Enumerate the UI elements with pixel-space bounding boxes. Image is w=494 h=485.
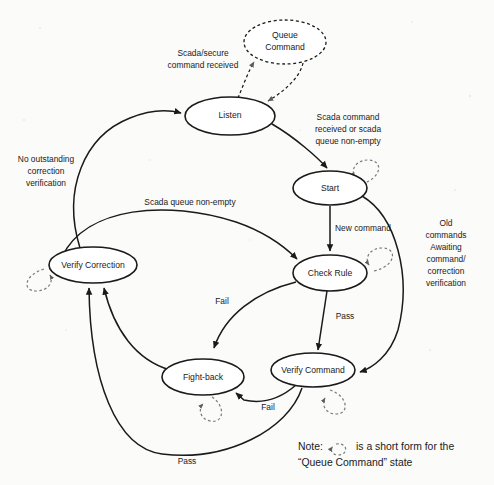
check-rule-label: Check Rule [308, 268, 353, 278]
note-suffix: is a short form for the [356, 441, 454, 452]
listen-label: Listen [219, 110, 242, 120]
edge-label-scada-queue: Scada queue non-empty [144, 197, 236, 207]
old-commands-line5: correction [428, 266, 465, 276]
state-fight-back[interactable]: Fight-back [162, 359, 244, 395]
edge-label-new-command: New command [335, 223, 391, 233]
state-diagram-canvas: Queue Command Listen Start Verify Correc… [0, 0, 494, 485]
note-prefix: Note: [298, 441, 323, 452]
old-commands-line4: command/ [426, 254, 466, 264]
scada-secure-line2: command received [168, 60, 239, 70]
edge-label-old-commands: Old commands Awaiting command/ correctio… [426, 218, 467, 288]
edge-label-no-outstanding: No outstanding correction verification [18, 154, 75, 188]
old-commands-line2: commands [426, 230, 467, 240]
state-listen[interactable]: Listen [185, 97, 275, 135]
check-rule-self-loop-icon[interactable] [367, 248, 392, 271]
queue-command-shorthand-icon [331, 444, 345, 455]
state-check-rule[interactable]: Check Rule [293, 255, 367, 291]
edge-label-fail-verify-command: Fail [261, 402, 275, 412]
no-outstanding-line1: No outstanding [18, 154, 75, 164]
old-commands-line3: Awaiting [430, 242, 462, 252]
note-line2: “Queue Command” state [298, 457, 413, 468]
queue-command-label-line1: Queue [272, 30, 298, 40]
scada-received-line3: queue non-empty [315, 136, 381, 146]
fail-verify-command-line1: Fail [261, 402, 275, 412]
edge-fight-back-to-verify-correction[interactable] [104, 288, 170, 370]
edge-listen-to-queue-command[interactable] [238, 62, 254, 98]
edge-label-fail-check-rule: Fail [215, 296, 229, 306]
edge-check-rule-to-verify-command[interactable] [318, 291, 327, 350]
edge-label-scada-received: Scada command received or scada queue no… [315, 112, 381, 146]
edge-label-pass-bottom: Pass [178, 456, 197, 466]
new-command-line1: New command [335, 223, 391, 233]
no-outstanding-line3: verification [26, 178, 66, 188]
queue-command-label-line2: Command [265, 42, 305, 52]
diagram-note: Note: is a short form for the “Queue Com… [298, 441, 454, 468]
scada-queue-line1: Scada queue non-empty [144, 197, 236, 207]
old-commands-line6: verification [426, 278, 466, 288]
state-verify-command[interactable]: Verify Command [271, 353, 355, 387]
verify-command-self-loop-icon[interactable] [324, 390, 346, 414]
scada-secure-line1: Scada/secure [177, 48, 229, 58]
state-machine-diagram: Queue Command Listen Start Verify Correc… [0, 0, 494, 485]
verify-correction-self-loop-icon[interactable] [27, 269, 51, 291]
scada-received-line1: Scada command [317, 112, 380, 122]
edge-queue-command-to-listen[interactable] [268, 63, 303, 101]
no-outstanding-line2: correction [28, 166, 65, 176]
edge-label-scada-secure: Scada/secure command received [168, 48, 239, 70]
fail-check-rule-line1: Fail [215, 296, 229, 306]
fight-back-self-loop-icon[interactable] [200, 397, 221, 421]
state-queue-command[interactable]: Queue Command [244, 20, 326, 64]
verify-command-label: Verify Command [281, 365, 345, 375]
paper-noise [23, 21, 471, 471]
fight-back-label: Fight-back [183, 372, 224, 382]
pass-check-rule-line1: Pass [336, 311, 355, 321]
edge-check-rule-to-fight-back[interactable] [214, 282, 296, 348]
start-label: Start [321, 183, 340, 193]
scada-received-line2: received or scada [315, 124, 381, 134]
old-commands-line1: Old [439, 218, 452, 228]
verify-correction-label: Verify Correction [61, 260, 125, 270]
pass-bottom-line1: Pass [178, 456, 197, 466]
edge-verify-command-to-fight-back[interactable] [236, 385, 296, 401]
edge-label-pass-check-rule: Pass [336, 311, 355, 321]
state-start[interactable]: Start [293, 171, 367, 205]
state-verify-correction[interactable]: Verify Correction [49, 247, 137, 283]
